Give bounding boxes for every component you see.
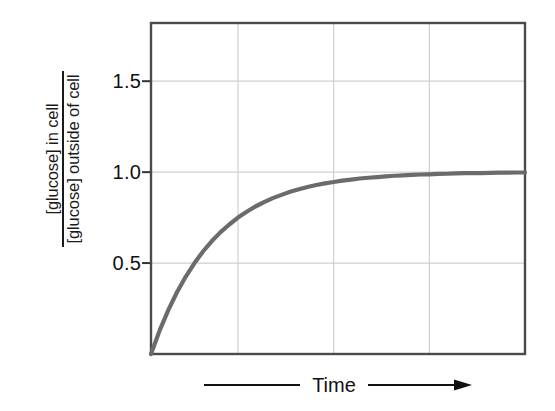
chart-figure: [glucose] in cell [glucose] outside of c… xyxy=(0,0,555,411)
x-axis-label-text: Time xyxy=(300,375,368,395)
plot-frame xyxy=(151,23,525,354)
x-axis-label: Time xyxy=(151,368,525,402)
vertical-gridlines xyxy=(238,23,429,354)
y-tick-marks xyxy=(142,81,151,263)
right-arrow-icon xyxy=(368,377,472,393)
plot-area xyxy=(0,0,555,411)
x-axis-rule-left xyxy=(204,384,300,386)
